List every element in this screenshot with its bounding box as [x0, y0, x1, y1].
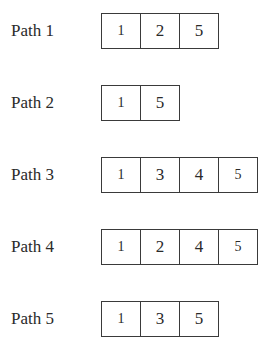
node-cell: 1: [102, 230, 141, 264]
path-label: Path 3: [11, 157, 54, 193]
node-cell: 5: [180, 14, 218, 48]
node-sequence: 1 2 5: [101, 13, 219, 49]
node-cell: 1: [102, 14, 141, 48]
node-cell: 5: [180, 302, 218, 336]
node-sequence: 1 2 4 5: [101, 229, 258, 265]
node-cell: 3: [141, 158, 180, 192]
path-row-2: Path 2 1 5: [0, 85, 272, 121]
path-label: Path 5: [11, 301, 54, 337]
path-row-5: Path 5 1 3 5: [0, 301, 272, 337]
node-cell: 1: [102, 86, 141, 120]
path-row-4: Path 4 1 2 4 5: [0, 229, 272, 265]
node-cell: 1: [102, 302, 141, 336]
node-cell: 4: [180, 158, 219, 192]
node-cell: 2: [141, 14, 180, 48]
node-sequence: 1 3 4 5: [101, 157, 258, 193]
path-label: Path 2: [11, 85, 54, 121]
path-label: Path 1: [11, 13, 54, 49]
path-row-1: Path 1 1 2 5: [0, 13, 272, 49]
node-cell: 2: [141, 230, 180, 264]
path-label: Path 4: [11, 229, 54, 265]
node-sequence: 1 5: [101, 85, 180, 121]
node-sequence: 1 3 5: [101, 301, 219, 337]
node-cell: 3: [141, 302, 180, 336]
path-row-3: Path 3 1 3 4 5: [0, 157, 272, 193]
node-cell: 5: [141, 86, 179, 120]
node-cell: 1: [102, 158, 141, 192]
node-cell: 5: [219, 230, 257, 264]
node-cell: 4: [180, 230, 219, 264]
node-cell: 5: [219, 158, 257, 192]
